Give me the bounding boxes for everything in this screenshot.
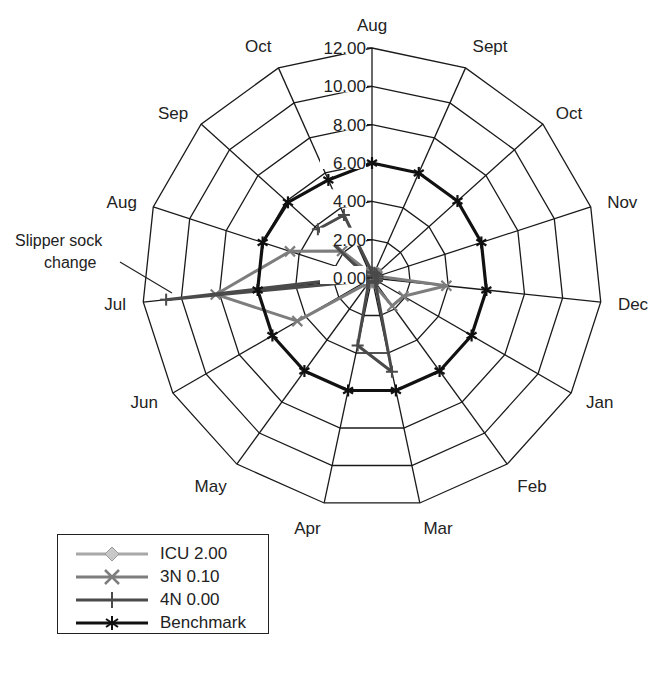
legend-item-4n: 4N 0.00 — [58, 589, 220, 611]
legend-star-marker-icon — [72, 612, 152, 634]
axis-label-feb: Feb — [517, 477, 546, 496]
legend-label: Benchmark — [160, 613, 246, 633]
axis-label-apr: Apr — [294, 519, 321, 538]
legend-x-marker-icon — [72, 566, 152, 588]
axis-label-nov: Nov — [607, 193, 638, 212]
annotation-leader-line — [120, 262, 172, 293]
radial-tick-label: 0.00 — [333, 269, 366, 288]
legend-label: 3N 0.10 — [160, 567, 220, 587]
axis-label-sep: Sep — [158, 104, 188, 123]
annotation-line1: Slipper sock — [15, 232, 103, 249]
axis-label-aug: Aug — [107, 193, 137, 212]
legend-item-icu: ICU 2.00 — [58, 543, 227, 565]
legend-diamond-marker-icon — [72, 543, 152, 565]
legend-item-3n: 3N 0.10 — [58, 566, 220, 588]
axis-label-mar: Mar — [423, 519, 453, 538]
series-3n — [211, 246, 452, 326]
legend-plus-marker-icon — [72, 589, 152, 611]
radial-tick-label: 2.00 — [333, 231, 366, 250]
legend-item-benchmark: Benchmark — [58, 612, 246, 634]
axis-label-oct: Oct — [245, 37, 272, 56]
axis-label-jun: Jun — [130, 393, 157, 412]
legend: ICU 2.00 3N 0.10 4N 0.00 Benchmark — [57, 534, 269, 634]
legend-label: ICU 2.00 — [160, 544, 227, 564]
axis-label-oct: Oct — [556, 104, 583, 123]
axis-label-jul: Jul — [104, 295, 126, 314]
radial-tick-label: 10.00 — [323, 77, 366, 96]
legend-label: 4N 0.00 — [160, 590, 220, 610]
radial-tick-label: 4.00 — [333, 192, 366, 211]
radial-tick-label: 6.00 — [333, 154, 366, 173]
annotation-line2: change — [44, 254, 97, 271]
radial-tick-label: 12.00 — [323, 39, 366, 58]
axis-label-sept: Sept — [473, 37, 508, 56]
radial-tick-label: 8.00 — [333, 116, 366, 135]
axis-label-aug: Aug — [357, 16, 387, 35]
axis-label-dec: Dec — [618, 295, 649, 314]
axis-label-jan: Jan — [586, 393, 613, 412]
annotation-slipper-sock: Slipper sock change — [15, 232, 172, 293]
axis-label-may: May — [195, 477, 228, 496]
